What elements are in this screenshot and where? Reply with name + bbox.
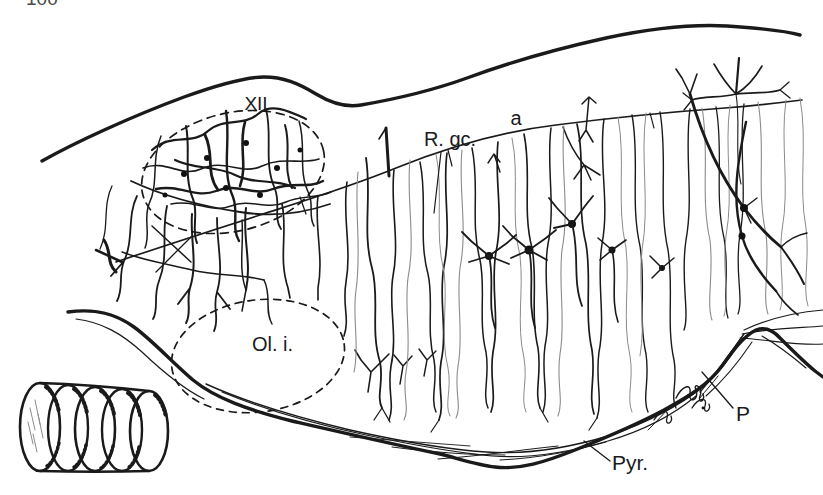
page-number: 100 xyxy=(26,0,58,9)
sectioned-cylinder-icon xyxy=(20,383,168,472)
label-a: a xyxy=(510,107,522,129)
xii-dashed-outline xyxy=(128,92,337,251)
label-p: P xyxy=(736,402,750,425)
top-outline xyxy=(42,26,800,161)
reticular-fibers-dark xyxy=(344,104,744,432)
olive-dashed-outline xyxy=(164,288,352,423)
label-ol-i: Ol. i. xyxy=(252,333,293,355)
figure-page: 100 xyxy=(0,0,823,495)
xii-neuropil-tangle xyxy=(131,108,331,248)
pyramid-fiber-bundle xyxy=(206,310,823,460)
label-pyr: Pyr. xyxy=(612,451,648,474)
label-xii: XII xyxy=(244,93,267,114)
label-r-gc: R. gc. xyxy=(424,128,476,150)
brainstem-golgi-drawing: 100 xyxy=(0,0,823,495)
